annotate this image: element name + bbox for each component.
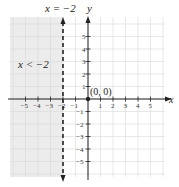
y-tick-label: 2	[82, 71, 86, 79]
x-tick-label: −2	[58, 102, 66, 110]
origin-point	[86, 97, 90, 101]
origin-label: (0, 0)	[90, 86, 112, 98]
y-tick-label: 3	[82, 58, 86, 66]
x-tick-label: 3	[124, 102, 128, 110]
y-tick-label: 5	[82, 33, 86, 41]
region-label: x < −2	[17, 58, 49, 70]
y-tick-label: −2	[76, 121, 84, 129]
x-tick-label: 1	[99, 102, 103, 110]
y-axis-label: y	[86, 2, 92, 14]
y-tick-label: 4	[82, 46, 86, 54]
line-label: x = −2	[44, 2, 76, 14]
x-tick-label: −3	[46, 102, 54, 110]
shaded-region	[10, 17, 63, 177]
y-axis-arrow-icon	[86, 16, 91, 23]
y-tick-label: 1	[82, 83, 86, 91]
x-tick-label: 4	[136, 102, 140, 110]
x-tick-label: −4	[33, 102, 41, 110]
y-tick-label: −1	[76, 108, 84, 116]
x-tick-label: 2	[111, 102, 115, 110]
boundary-arrow-down-icon	[61, 175, 66, 182]
x-tick-label: −5	[21, 102, 29, 110]
x-axis-label: x	[168, 94, 174, 105]
y-tick-label: −4	[76, 146, 84, 154]
x-tick-label: 5	[149, 102, 153, 110]
coordinate-plane: −5−4−3−2−11234554321−1−2−3−4−5 x = −2 y …	[0, 0, 179, 187]
y-tick-label: −3	[76, 133, 84, 141]
y-tick-label: −5	[76, 158, 84, 166]
